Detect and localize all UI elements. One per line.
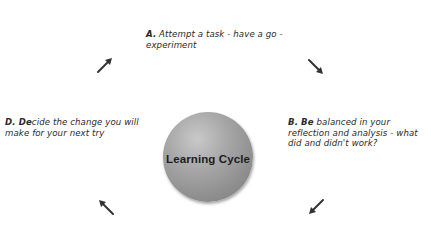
learning-cycle-diagram: A. Attempt a task - have a go - experime… xyxy=(0,0,431,239)
learning-cycle-hub: Learning Cycle xyxy=(163,112,253,202)
arrow-down-right-icon xyxy=(306,57,326,77)
arrow-up-left-icon xyxy=(96,197,116,217)
step-a-letter: A. xyxy=(146,29,156,39)
arrow-down-left-icon xyxy=(306,197,326,217)
step-b-letter: B. Be xyxy=(288,117,314,127)
hub-label: Learning Cycle xyxy=(166,153,250,165)
step-b-text: B. Be balanced in your reflection and an… xyxy=(288,117,428,149)
step-d-text: D. Decide the change you will make for y… xyxy=(5,117,145,138)
step-a-description: Attempt a task - have a go - experiment xyxy=(146,29,283,50)
step-d-letter: D. De xyxy=(5,117,32,127)
arrow-up-right-icon xyxy=(95,55,115,75)
step-a-text: A. Attempt a task - have a go - experime… xyxy=(146,29,296,50)
